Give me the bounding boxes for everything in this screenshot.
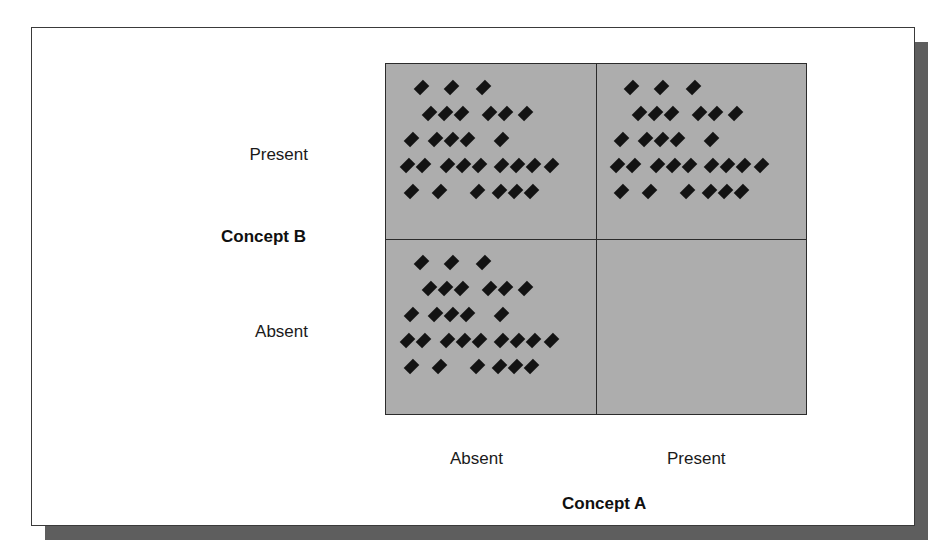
data-point-diamond xyxy=(444,80,460,96)
data-point-diamond xyxy=(414,80,430,96)
data-point-diamond xyxy=(526,333,542,349)
data-point-diamond xyxy=(754,158,770,174)
plot-area xyxy=(385,63,807,415)
data-point-diamond xyxy=(614,132,630,148)
dot-row xyxy=(399,79,584,105)
data-point-diamond xyxy=(472,333,488,349)
dot-row xyxy=(399,131,584,157)
data-point-diamond xyxy=(654,132,670,148)
data-point-diamond xyxy=(470,184,486,200)
data-point-diamond xyxy=(544,158,560,174)
data-point-diamond xyxy=(404,359,420,375)
data-point-diamond xyxy=(544,333,560,349)
data-point-diamond xyxy=(734,184,750,200)
dot-row xyxy=(399,332,584,358)
dot-row xyxy=(399,105,584,131)
data-point-diamond xyxy=(432,184,448,200)
data-point-diamond xyxy=(666,158,682,174)
data-point-diamond xyxy=(638,132,654,148)
data-point-diamond xyxy=(494,158,510,174)
data-point-diamond xyxy=(670,132,686,148)
data-point-diamond xyxy=(610,158,626,174)
data-point-diamond xyxy=(642,184,658,200)
data-point-diamond xyxy=(472,158,488,174)
figure-panel: Present Absent Concept B Absent Present … xyxy=(31,27,915,526)
data-point-diamond xyxy=(440,333,456,349)
data-point-diamond xyxy=(414,255,430,271)
data-point-diamond xyxy=(494,307,510,323)
data-point-diamond xyxy=(476,80,492,96)
data-point-diamond xyxy=(614,184,630,200)
data-point-diamond xyxy=(460,132,476,148)
data-point-diamond xyxy=(510,158,526,174)
data-point-diamond xyxy=(440,158,456,174)
data-point-diamond xyxy=(510,333,526,349)
data-point-diamond xyxy=(524,359,540,375)
data-point-diamond xyxy=(708,106,724,122)
data-point-diamond xyxy=(508,359,524,375)
data-point-diamond xyxy=(648,106,664,122)
data-point-diamond xyxy=(728,106,744,122)
data-point-diamond xyxy=(654,80,670,96)
data-point-diamond xyxy=(400,158,416,174)
data-point-diamond xyxy=(492,359,508,375)
x-axis-tick-present: Present xyxy=(667,449,726,469)
data-point-diamond xyxy=(456,158,472,174)
data-point-diamond xyxy=(416,333,432,349)
x-axis-title: Concept A xyxy=(562,494,646,514)
data-point-diamond xyxy=(482,106,498,122)
y-axis-tick-absent: Absent xyxy=(255,322,308,342)
data-point-diamond xyxy=(494,333,510,349)
quadrant-bottom-left xyxy=(386,239,596,414)
data-point-diamond xyxy=(492,184,508,200)
data-point-diamond xyxy=(704,132,720,148)
dot-row xyxy=(399,254,584,280)
data-point-diamond xyxy=(518,281,534,297)
data-point-diamond xyxy=(428,307,444,323)
dot-cluster xyxy=(399,79,584,209)
y-axis-tick-present: Present xyxy=(249,145,308,165)
y-axis-title: Concept B xyxy=(221,227,306,247)
data-point-diamond xyxy=(404,132,420,148)
dot-row xyxy=(399,306,584,332)
data-point-diamond xyxy=(470,359,486,375)
data-point-diamond xyxy=(404,307,420,323)
data-point-diamond xyxy=(438,281,454,297)
data-point-diamond xyxy=(404,184,420,200)
data-point-diamond xyxy=(476,255,492,271)
data-point-diamond xyxy=(416,158,432,174)
data-point-diamond xyxy=(456,333,472,349)
dot-cluster xyxy=(399,254,584,384)
quadrant-top-right xyxy=(596,64,806,239)
data-point-diamond xyxy=(720,158,736,174)
data-point-diamond xyxy=(422,106,438,122)
data-point-diamond xyxy=(632,106,648,122)
dot-row xyxy=(609,157,794,183)
data-point-diamond xyxy=(664,106,680,122)
data-point-diamond xyxy=(702,184,718,200)
data-point-diamond xyxy=(524,184,540,200)
data-point-diamond xyxy=(444,255,460,271)
data-point-diamond xyxy=(438,106,454,122)
data-point-diamond xyxy=(686,80,702,96)
data-point-diamond xyxy=(432,359,448,375)
data-point-diamond xyxy=(460,307,476,323)
dot-cluster xyxy=(609,79,794,209)
data-point-diamond xyxy=(422,281,438,297)
data-point-diamond xyxy=(444,307,460,323)
dot-row xyxy=(399,358,584,384)
x-axis-tick-absent: Absent xyxy=(450,449,503,469)
data-point-diamond xyxy=(400,333,416,349)
data-point-diamond xyxy=(428,132,444,148)
dot-row xyxy=(609,79,794,105)
data-point-diamond xyxy=(718,184,734,200)
dot-row xyxy=(399,157,584,183)
data-point-diamond xyxy=(508,184,524,200)
data-point-diamond xyxy=(454,106,470,122)
data-point-diamond xyxy=(444,132,460,148)
data-point-diamond xyxy=(518,106,534,122)
data-point-diamond xyxy=(498,281,514,297)
data-point-diamond xyxy=(680,184,696,200)
quadrant-bottom-right xyxy=(596,239,806,414)
data-point-diamond xyxy=(650,158,666,174)
